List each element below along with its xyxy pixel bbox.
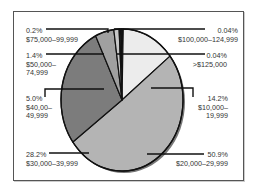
label-125k: 0.04% >$125,000	[178, 52, 227, 69]
label-10k: 14.2% $10,000– 19,999	[178, 95, 228, 121]
label-20k-range: $20,000–29,999	[170, 160, 228, 169]
label-100k: 0.04% $100,000–124,999	[178, 27, 238, 44]
label-10k-range2: 19,999	[178, 112, 228, 121]
label-100k-range: $100,000–124,999	[178, 36, 238, 45]
label-40k-range2: 49,999	[26, 112, 52, 121]
label-20k: 50.9% $20,000–29,999	[170, 151, 228, 168]
label-75k: 0.2% $75,000–99,999	[26, 27, 78, 44]
label-75k-range: $75,000–99,999	[26, 36, 78, 45]
label-50k: 1.4% $50,000– 74,999	[26, 52, 56, 78]
label-50k-range2: 74,999	[26, 69, 56, 78]
label-40k: 5.0% $40,00– 49,999	[26, 95, 52, 121]
label-30k: 28.2% $30,000–39,999	[26, 151, 78, 168]
label-125k-range: >$125,000	[178, 61, 227, 70]
label-30k-range: $30,000–39,999	[26, 160, 78, 169]
